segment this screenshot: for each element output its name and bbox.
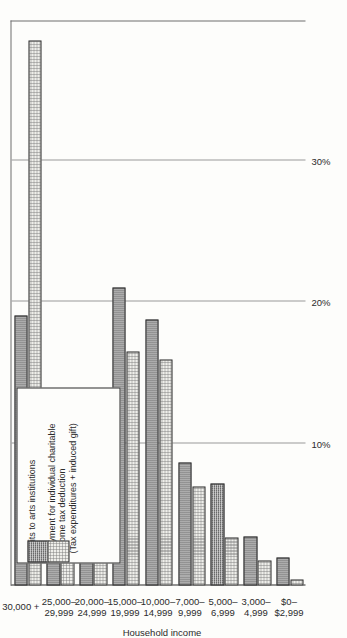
value-tick-label: 30% [309,156,333,167]
bar-charitable-tax-deduction [257,560,270,585]
bar-charitable-tax-deduction [192,486,205,585]
axis-title: Household income [117,627,207,638]
chart-legend: Visits to arts institutions Payment for … [16,387,120,563]
bar-visits-to-arts-institutions [178,462,191,585]
legend-item: Payment for individual charitable income… [46,396,78,553]
bar-visits-to-arts-institutions [276,557,289,585]
bar-charitable-tax-deduction [290,579,303,585]
legend-item: Visits to arts institutions [26,396,37,553]
category-label: 30,000 + [1,602,41,613]
category-label: $0– $2,999 [268,597,308,618]
value-tick-label: 10% [309,438,333,449]
legend-label: Visits to arts institutions [26,459,37,553]
bar-charitable-tax-deduction [126,351,139,585]
bar-visits-to-arts-institutions [243,536,256,585]
bar-visits-to-arts-institutions [145,319,158,585]
legend-swatch-light [47,540,69,562]
bar-charitable-tax-deduction [159,359,172,585]
value-tick-label: 20% [309,297,333,308]
legend-label: Payment for individual charitable income… [46,423,78,553]
gridline [11,301,305,302]
bar-visits-to-arts-institutions [210,483,223,585]
gridline [11,159,305,160]
bar-charitable-tax-deduction [224,537,237,585]
legend-swatch-dark [27,540,49,562]
